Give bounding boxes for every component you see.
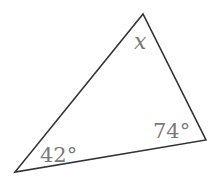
angle-label-right: 74° (153, 119, 190, 143)
triangle-figure: x 42° 74° (0, 0, 219, 186)
angle-label-bottom-left: 42° (40, 143, 77, 167)
triangle-diagram: x 42° 74° (0, 0, 219, 186)
angle-label-top: x (134, 29, 147, 54)
